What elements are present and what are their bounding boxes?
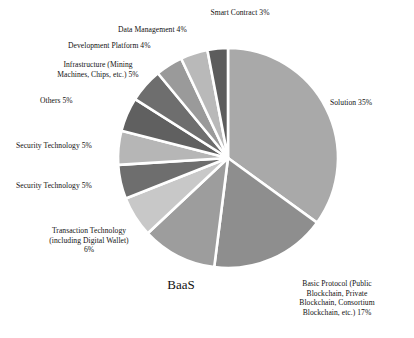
pie-label-solution: Solution 35% [330,98,406,108]
pie-label-transaction-technology: Transaction Technology (including Digita… [30,226,148,255]
pie-label-basic-protocol: Basic Protocol (Public Blockchain, Priva… [272,279,402,317]
pie-label-smart-contract: Smart Contract 3% [178,8,302,18]
pie-slices-group [118,48,338,268]
pie-label-security-technology-2: Security Technology 5% [16,181,128,191]
pie-label-data-management: Data Management 4% [118,25,238,35]
pie-label-baas: BaaS [146,277,216,292]
pie-label-infrastructure: Infrastructure (Mining Machines, Chips, … [32,60,164,79]
pie-label-security-technology-1: Security Technology 5% [16,141,128,151]
pie-label-development-platform: Development Platform 4% [68,41,208,51]
pie-chart: Smart Contract 3% Data Management 4% Dev… [0,0,414,338]
pie-label-others: Others 5% [40,96,132,106]
